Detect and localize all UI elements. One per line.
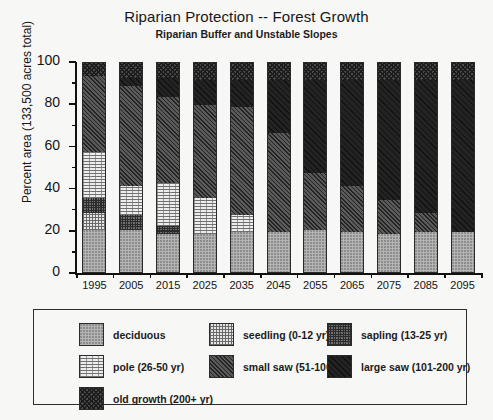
bar-segment-deciduous[interactable] (268, 232, 290, 272)
bar-segment-old-growth[interactable] (231, 62, 253, 80)
stacked-bar[interactable] (377, 62, 401, 273)
y-tick-minor (72, 167, 77, 169)
stacked-bar[interactable] (267, 62, 291, 273)
stacked-bar[interactable] (193, 62, 217, 273)
legend-label: deciduous (113, 329, 166, 341)
bar-segment-large-saw[interactable] (415, 80, 437, 213)
stacked-bar[interactable] (451, 62, 475, 273)
bar-segment-old-growth[interactable] (194, 62, 216, 80)
bar-segment-deciduous[interactable] (83, 230, 105, 272)
bar-segment-sapling[interactable] (83, 198, 105, 213)
bar-segment-large-saw[interactable] (341, 80, 363, 186)
x-tick (113, 273, 115, 278)
bar-segment-pole[interactable] (231, 215, 253, 232)
stacked-bar[interactable] (414, 62, 438, 273)
x-tick-label: 2075 (371, 279, 408, 292)
bar-segment-old-growth[interactable] (341, 62, 363, 80)
bar-segment-seedling[interactable] (83, 213, 105, 230)
bar-segment-deciduous[interactable] (120, 230, 142, 272)
bar-segment-large-saw[interactable] (304, 80, 326, 173)
bar-segment-old-growth[interactable] (452, 62, 474, 80)
legend-label: seedling (0-12 yr) (243, 329, 329, 341)
bar-segment-old-growth[interactable] (304, 62, 326, 80)
x-tick (334, 273, 336, 278)
legend-item[interactable]: seedling (0-12 yr) (209, 323, 329, 346)
chart-title: Riparian Protection -- Forest Growth (0, 8, 493, 26)
bar-segment-sapling[interactable] (157, 226, 179, 234)
x-tick (297, 273, 299, 278)
stacked-bar[interactable] (156, 62, 180, 273)
bar-segment-small-saw[interactable] (120, 86, 142, 185)
bar-segment-old-growth[interactable] (378, 62, 400, 80)
bar-segment-small-saw[interactable] (415, 213, 437, 232)
x-tick-label: 2025 (186, 279, 223, 292)
chart-subtitle: Riparian Buffer and Unstable Slopes (0, 27, 493, 41)
bar-segment-small-saw[interactable] (268, 133, 290, 232)
x-tick-label: 2035 (223, 279, 260, 292)
bar-segment-old-growth[interactable] (157, 62, 179, 78)
stacked-bar[interactable] (303, 62, 327, 273)
legend-item[interactable]: large saw (101-200 yr) (327, 355, 470, 378)
y-tick-minor (72, 82, 77, 84)
stacked-bar[interactable] (119, 62, 143, 273)
bar-segment-large-saw[interactable] (268, 80, 290, 133)
bar-segment-deciduous[interactable] (194, 234, 216, 272)
bar-segment-large-saw[interactable] (231, 80, 253, 107)
bar-segment-large-saw[interactable] (157, 78, 179, 97)
bar-segment-pole[interactable] (194, 198, 216, 234)
bar-segment-small-saw[interactable] (83, 76, 105, 152)
bar-segment-small-saw[interactable] (378, 200, 400, 234)
bar-segment-large-saw[interactable] (452, 80, 474, 232)
bar-segment-old-growth[interactable] (83, 62, 105, 76)
stacked-bar[interactable] (340, 62, 364, 273)
x-tick (76, 273, 78, 278)
bar-segment-small-saw[interactable] (157, 97, 179, 184)
bar-segment-sapling[interactable] (120, 215, 142, 230)
legend-item[interactable]: sapling (13-25 yr) (327, 323, 447, 346)
y-tick-minor (72, 209, 77, 211)
x-tick (223, 273, 225, 278)
plot-area: 020406080100 199520052015202520352045205… (76, 62, 481, 273)
stacked-bar[interactable] (230, 62, 254, 273)
legend-swatch (79, 323, 104, 346)
legend-label: pole (26-50 yr) (113, 361, 184, 373)
bar-segment-small-saw[interactable] (304, 173, 326, 230)
bar-segment-deciduous[interactable] (157, 234, 179, 272)
x-axis-line (75, 273, 481, 275)
bar-segment-old-growth[interactable] (415, 62, 437, 80)
bar-segment-small-saw[interactable] (341, 186, 363, 232)
y-tick-major: 0 (69, 272, 76, 274)
bar-segment-large-saw[interactable] (194, 80, 216, 105)
bar-segment-deciduous[interactable] (231, 232, 253, 272)
bar-segment-old-growth[interactable] (268, 62, 290, 80)
bar-segment-large-saw[interactable] (120, 78, 142, 86)
bar-segment-pole[interactable] (157, 183, 179, 225)
bar-segment-deciduous[interactable] (304, 230, 326, 272)
bar-segment-deciduous[interactable] (415, 232, 437, 272)
bar-segment-deciduous[interactable] (452, 232, 474, 272)
legend-swatch (79, 355, 104, 378)
stacked-bar[interactable] (82, 62, 106, 273)
legend-item[interactable]: deciduous (79, 323, 166, 346)
x-tick (481, 273, 483, 278)
x-tick-label: 2065 (334, 279, 371, 292)
y-tick-major: 80 (69, 103, 76, 105)
y-tick-label: 0 (20, 263, 60, 279)
legend-swatch (79, 387, 104, 410)
x-tick-label: 2005 (113, 279, 150, 292)
legend-item[interactable]: old growth (200+ yr) (79, 387, 213, 410)
x-tick (150, 273, 152, 278)
legend-item[interactable]: pole (26-50 yr) (79, 355, 184, 378)
bar-segment-pole[interactable] (83, 152, 105, 198)
bar-segment-small-saw[interactable] (194, 105, 216, 198)
bar-segment-deciduous[interactable] (341, 232, 363, 272)
bar-segment-deciduous[interactable] (378, 234, 400, 272)
bar-segment-old-growth[interactable] (120, 62, 142, 78)
x-tick (260, 273, 262, 278)
y-tick-label: 60 (20, 137, 60, 153)
bar-segment-pole[interactable] (120, 186, 142, 216)
y-tick-major: 20 (69, 230, 76, 232)
bar-segment-large-saw[interactable] (378, 80, 400, 200)
bar-segment-small-saw[interactable] (231, 107, 253, 215)
y-tick-label: 100 (20, 52, 60, 68)
